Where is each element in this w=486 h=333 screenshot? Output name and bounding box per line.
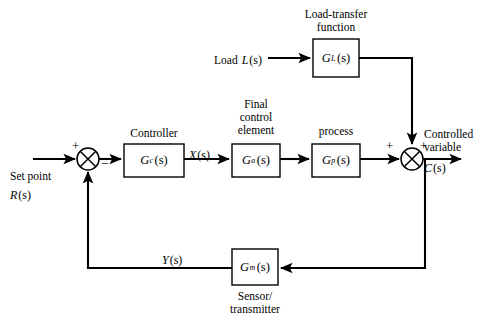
signal-load-input: LoadL(s): [214, 50, 262, 68]
block-symbol-load-transfer-function: GL(s): [313, 39, 359, 77]
fce-symbol-base: G: [242, 153, 251, 168]
sensor-caption-line-1: Sensor/: [213, 290, 297, 303]
load-caption-line-1: Load-transfer: [288, 8, 384, 21]
load-input-symbol-arg: (s): [248, 53, 262, 67]
block-caption-load-transfer-function: Load-transfer function: [288, 8, 384, 34]
fce-symbol-arg: (s): [255, 153, 270, 168]
output-junction-plus-sign-top: +: [420, 139, 427, 152]
controlled-variable-line-2: variable: [424, 141, 473, 154]
feedback-symbol-arg: (s): [169, 253, 183, 267]
signal-controller-output: X(s): [189, 145, 210, 163]
set-point-symbol-arg: (s): [17, 188, 31, 202]
block-caption-final-control-element: Final control element: [219, 98, 293, 137]
signal-set-point: Set point R(s): [10, 170, 51, 203]
load-symbol-base: G: [322, 51, 331, 66]
block-symbol-sensor-transmitter: Gm(s): [232, 249, 278, 285]
fce-caption-line-2: control: [219, 111, 293, 124]
signal-controlled-variable: Controlled variable C(s): [424, 128, 473, 176]
block-caption-controller: Controller: [124, 127, 184, 140]
process-symbol-arg: (s): [335, 153, 350, 168]
process-symbol-base: G: [322, 153, 331, 168]
controller-symbol-arg: (s): [153, 153, 168, 168]
error-junction-plus-sign: +: [72, 139, 79, 152]
sensor-caption-line-2: transmitter: [213, 303, 297, 316]
block-symbol-process: Gp(s): [312, 144, 360, 177]
load-input-text: Load: [214, 54, 238, 66]
controller-output-symbol-arg: (s): [196, 148, 210, 162]
control-block-diagram: Controller Final control element process…: [0, 0, 486, 333]
controlled-variable-symbol: C(s): [424, 158, 473, 176]
controlled-variable-symbol-arg: (s): [432, 161, 446, 175]
load-caption-line-2: function: [288, 21, 384, 34]
feedback-symbol-base: Y: [162, 253, 169, 267]
controlled-variable-symbol-base: C: [424, 161, 432, 175]
block-caption-process: process: [303, 125, 369, 138]
wire-sensor-to-error-junction: [88, 172, 232, 268]
load-symbol-arg: (s): [336, 51, 351, 66]
fce-caption-line-1: Final: [219, 98, 293, 111]
block-symbol-final-control-element: Ga(s): [232, 144, 280, 177]
load-input-symbol-base: L: [238, 53, 249, 67]
output-junction-plus-sign-left: +: [386, 139, 393, 152]
sensor-symbol-arg: (s): [255, 260, 270, 275]
controller-symbol-base: G: [140, 153, 149, 168]
error-junction-minus-sign: −: [101, 157, 108, 170]
set-point-text: Set point: [10, 170, 51, 183]
fce-caption-line-3: element: [219, 124, 293, 137]
signal-feedback: Y(s): [162, 250, 182, 268]
sensor-symbol-base: G: [240, 260, 249, 275]
set-point-symbol: R(s): [10, 185, 51, 203]
block-caption-sensor-transmitter: Sensor/ transmitter: [213, 290, 297, 316]
block-symbol-controller: Gc(s): [124, 144, 184, 177]
controlled-variable-line-1: Controlled: [424, 128, 473, 141]
